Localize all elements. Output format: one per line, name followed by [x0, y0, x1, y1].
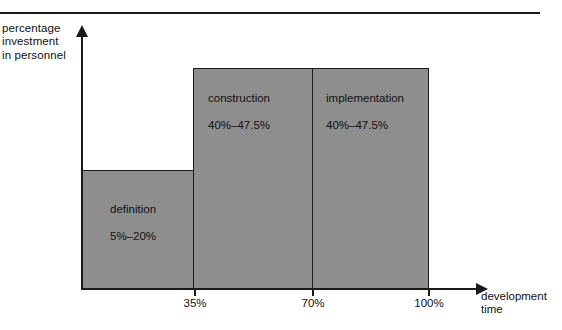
bar-construction-range: 40%–47.5% — [208, 119, 270, 131]
bar-implementation-label: implementation 40%–47.5% — [326, 79, 404, 133]
bar-chart-figure: percentage investment in personnel defin… — [0, 0, 562, 330]
bar-definition-range: 5%–20% — [110, 230, 156, 242]
bar-construction-name: construction — [208, 92, 270, 104]
x-axis-label: development time — [481, 290, 561, 317]
bar-definition-name: definition — [110, 203, 156, 215]
x-tick-35 — [194, 289, 196, 296]
x-tick-label-100: 100% — [414, 297, 443, 310]
x-tick-70 — [312, 289, 314, 296]
x-axis-line — [81, 288, 478, 290]
bar-definition-label: definition 5%–20% — [110, 190, 156, 244]
y-axis-label: percentage investment in personnel — [2, 22, 80, 62]
bar-implementation-range: 40%–47.5% — [326, 119, 388, 131]
top-divider-rule — [0, 12, 540, 14]
x-tick-100 — [428, 289, 430, 296]
bar-implementation-name: implementation — [326, 92, 404, 104]
x-tick-label-70: 70% — [301, 297, 324, 310]
bar-construction-label: construction 40%–47.5% — [208, 79, 270, 133]
x-tick-label-35: 35% — [183, 297, 206, 310]
